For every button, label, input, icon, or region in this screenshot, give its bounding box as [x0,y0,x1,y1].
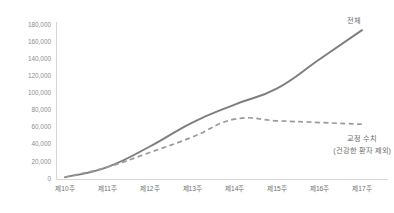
series-line-total [65,30,362,177]
y-axis-tick-label: 100,000 [28,89,52,96]
x-axis-tick-label: 제17주 [352,185,371,193]
y-axis-tick-label: 60,000 [31,123,51,130]
series-label-total: 전체 [347,16,361,25]
x-axis-tick-label: 제14주 [225,185,244,193]
y-axis-tick-label: 40,000 [31,140,51,147]
y-axis-tick-label: 160,000 [28,38,52,45]
chart-canvas: 180,000160,000140,000120,000100,00080,00… [0,0,394,213]
y-axis-tick-label: 80,000 [31,106,51,113]
series-label-adjusted-line1: 교정 수치 [347,134,377,143]
x-axis-tick-label: 제11주 [98,185,117,193]
series-line-adjusted [65,118,362,178]
line-chart: 180,000160,000140,000120,000100,00080,00… [0,0,394,213]
y-axis-tick-label: 120,000 [28,72,52,79]
x-axis-tick-label: 제13주 [183,185,202,193]
y-axis-tick-label: 140,000 [28,55,52,62]
y-axis-tick-label: 180,000 [28,21,52,28]
x-axis-tick-labels: 제10주제11주제12주제13주제14주제15주제16주제17주 [55,185,371,193]
series-label-adjusted-line2: (건강한 환자 제외) [333,146,391,155]
y-axis-tick-labels: 180,000160,000140,000120,000100,00080,00… [28,21,52,182]
x-axis-tick-label: 제10주 [55,185,74,193]
x-axis-tick-label: 제16주 [310,185,329,193]
x-axis-tick-label: 제15주 [267,185,286,193]
y-axis-tick-label: 0 [47,175,51,182]
x-axis-tick-label: 제12주 [140,185,159,193]
y-axis-tick-label: 20,000 [31,158,51,165]
